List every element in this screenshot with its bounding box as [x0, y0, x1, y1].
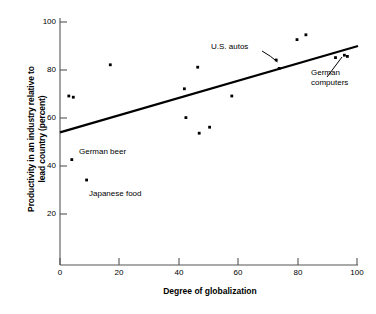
- x-tick-label-80: 80: [286, 268, 310, 277]
- x-tick-label-60: 60: [226, 268, 250, 277]
- data-point: [296, 38, 299, 41]
- annotation-german-beer: German beer: [79, 147, 126, 157]
- data-point: [72, 96, 75, 99]
- x-tick-label-40: 40: [167, 268, 191, 277]
- data-point: [198, 132, 201, 135]
- x-tick-label-0: 0: [48, 268, 72, 277]
- data-point-german-computers: [346, 55, 349, 58]
- chart-canvas: [0, 0, 376, 314]
- us-autos-leader-line: [262, 51, 278, 62]
- data-point: [208, 126, 211, 129]
- y-tick-label-100: 100: [32, 17, 56, 26]
- data-point: [230, 95, 233, 98]
- data-point-german-computers: [343, 54, 346, 57]
- data-point: [305, 33, 308, 36]
- annotation-german-computers-line2: computers: [311, 78, 348, 88]
- y-axis-label-line1: Productivity in an industry relative to: [26, 66, 36, 212]
- y-axis-ticks: [60, 22, 67, 214]
- data-point: [185, 116, 188, 119]
- data-point: [67, 95, 70, 98]
- y-axis-label: Productivity in an industry relative to …: [26, 39, 48, 239]
- annotation-us-autos: U.S. autos: [211, 42, 248, 52]
- data-point: [183, 87, 186, 90]
- x-tick-label-20: 20: [107, 268, 131, 277]
- scatter-chart: 100 80 60 40 20 0 20 40 60 80 100 Produc…: [0, 0, 376, 314]
- data-point-us-autos: [278, 67, 281, 70]
- data-point-german-beer: [70, 158, 73, 161]
- y-axis-label-line2: lead country (percent): [37, 95, 47, 182]
- trend-line: [60, 46, 358, 132]
- data-point: [109, 63, 112, 66]
- data-point-japanese-food: [85, 179, 88, 182]
- annotation-japanese-food: Japanese food: [89, 189, 142, 199]
- x-tick-label-100: 100: [345, 268, 369, 277]
- data-points: [67, 33, 348, 181]
- data-point-german-computers: [334, 56, 337, 59]
- x-axis-ticks: [60, 258, 357, 265]
- data-point: [196, 66, 199, 69]
- annotation-german-computers-line1: German: [311, 68, 340, 78]
- x-axis-label: Degree of globalization: [60, 286, 360, 296]
